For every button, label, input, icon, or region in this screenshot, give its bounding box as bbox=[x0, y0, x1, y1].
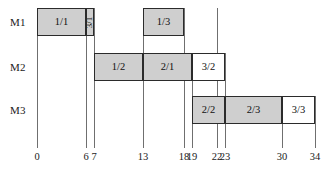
axis-tick-line bbox=[315, 96, 316, 148]
axis-tick-label: 30 bbox=[277, 151, 288, 162]
task-bar-label: 2/1 bbox=[161, 62, 174, 73]
task-bar: 3/3 bbox=[282, 96, 315, 124]
task-bar-label: 1/2 bbox=[112, 62, 125, 73]
task-bar: 3/1 bbox=[86, 8, 94, 36]
machine-row-label-m3: M3 bbox=[10, 104, 26, 116]
task-bar: 2/2 bbox=[192, 96, 225, 124]
task-bar: 1/2 bbox=[94, 53, 143, 81]
axis-tick-label: 0 bbox=[34, 151, 39, 162]
axis-tick-label: 34 bbox=[310, 151, 321, 162]
axis-tick-label: 19 bbox=[187, 151, 198, 162]
machine-row-label-m1: M1 bbox=[10, 16, 26, 28]
task-bar-label: 3/2 bbox=[202, 62, 215, 73]
task-bar-label: 2/3 bbox=[247, 105, 260, 116]
task-bar: 1/1 bbox=[37, 8, 86, 36]
axis-tick-label: 6 bbox=[83, 151, 88, 162]
task-bar-label: 3/1 bbox=[86, 16, 94, 28]
task-bar: 2/3 bbox=[225, 96, 282, 124]
task-bar-label: 1/1 bbox=[55, 17, 68, 28]
machine-row-label-m2: M2 bbox=[10, 61, 26, 73]
task-bar: 2/1 bbox=[143, 53, 192, 81]
task-bar-label: 3/3 bbox=[292, 105, 305, 116]
axis-tick-label: 7 bbox=[91, 151, 96, 162]
task-bar-label: 1/3 bbox=[157, 17, 170, 28]
axis-tick-label: 23 bbox=[220, 151, 231, 162]
task-bar: 1/3 bbox=[143, 8, 184, 36]
task-bar-label: 2/2 bbox=[202, 105, 215, 116]
axis-tick-label: 13 bbox=[138, 151, 149, 162]
task-bar: 3/2 bbox=[192, 53, 225, 81]
gantt-chart: 06713181922233034M11/13/11/3M21/22/13/2M… bbox=[0, 0, 332, 171]
